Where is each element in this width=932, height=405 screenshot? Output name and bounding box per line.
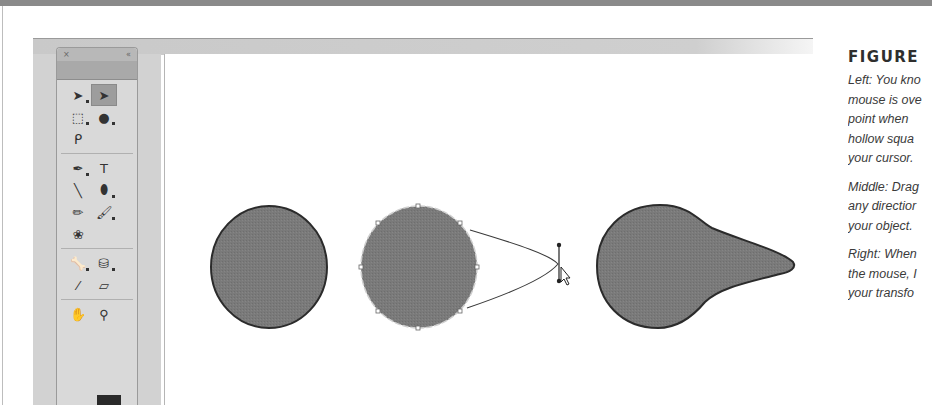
- caption-line: the mouse, I: [848, 265, 932, 285]
- caption-line: hollow squa: [848, 130, 932, 150]
- subselection-cursor-icon: [561, 267, 570, 285]
- caption-line: your cursor.: [848, 149, 932, 169]
- caption-line: Middle: Drag: [848, 178, 932, 198]
- stage-shapes: [0, 0, 932, 405]
- circle-left-shape[interactable]: [211, 206, 327, 328]
- caption-line: Left: You kno: [848, 71, 932, 91]
- caption-line: your object.: [848, 217, 932, 237]
- caption-paragraph: Middle: Dragany directioryour object.: [848, 178, 932, 237]
- caption-line: any directior: [848, 197, 932, 217]
- caption-paragraph: Left: You knomouse is ovepoint whenhollo…: [848, 71, 932, 169]
- caption-line: mouse is ove: [848, 91, 932, 111]
- circle-middle-shape[interactable]: [359, 204, 570, 330]
- caption-line: your transfo: [848, 284, 932, 304]
- caption-title: FIGURE: [848, 48, 932, 66]
- caption-line: point when: [848, 110, 932, 130]
- caption-paragraph: Right: Whenthe mouse, Iyour transfo: [848, 245, 932, 304]
- figure-caption: FIGURE Left: You knomouse is ovepoint wh…: [848, 48, 932, 313]
- caption-line: Right: When: [848, 245, 932, 265]
- teardrop-right-shape[interactable]: [597, 205, 794, 328]
